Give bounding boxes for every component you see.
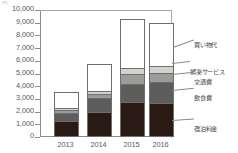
legend-item-買い物代: 買い物代	[194, 33, 217, 51]
stacked-bar-chart: (円) 10,0009,0008,0007,0006,0005,0004,000…	[0, 0, 238, 153]
bar-segment-娯楽サービス	[150, 67, 173, 74]
bar-segment-飲食費	[121, 85, 144, 103]
y-axis-tick-label: 3,000	[16, 94, 34, 102]
bars-group	[40, 10, 171, 137]
bar-2014	[87, 64, 112, 137]
y-axis-tick-label: 6,000	[16, 56, 34, 64]
bar-segment-宿泊料金	[150, 104, 173, 136]
legend-label: 買い物代	[194, 41, 217, 48]
bar-segment-飲食費	[88, 99, 111, 113]
y-axis-tick-label: 2,000	[16, 107, 34, 115]
bar-segment-買い物代	[150, 24, 173, 67]
x-axis-label-2016: 2016	[141, 140, 181, 149]
bar-segment-買い物代	[88, 65, 111, 92]
y-axis-tick-label: 5,000	[16, 69, 34, 77]
bar-2013	[54, 92, 79, 137]
bar-segment-宿泊料金	[121, 103, 144, 136]
legend-item-飲食費: 飲食費	[194, 86, 211, 104]
bar-segment-交通費	[121, 75, 144, 85]
bar-segment-宿泊料金	[88, 113, 111, 136]
bar-2015	[120, 19, 145, 137]
y-axis-tick-label: 9,000	[16, 18, 34, 26]
y-axis-tick-mark	[35, 137, 40, 138]
bar-segment-飲食費	[55, 114, 78, 122]
y-axis-tick-label: 4,000	[16, 82, 34, 90]
bar-segment-買い物代	[55, 93, 78, 110]
legend-item-宿泊料金: 宿泊料金	[194, 117, 217, 135]
y-axis-tick-label: 10,000	[12, 5, 34, 13]
legend-leader-line	[172, 118, 194, 121]
legend-leader-line	[172, 61, 190, 64]
legend-leader-line	[172, 88, 194, 91]
legend-label: 飲食費	[194, 94, 211, 101]
bar-segment-買い物代	[121, 20, 144, 69]
bar-segment-交通費	[150, 74, 173, 83]
legend-label: 交通費	[194, 78, 211, 85]
bar-segment-宿泊料金	[55, 122, 78, 136]
legend-label: 宿泊料金	[194, 125, 217, 132]
y-axis-tick-label: 7,000	[16, 44, 34, 52]
y-axis-tick-label: 8,000	[16, 31, 34, 39]
legend-leader-line	[173, 40, 194, 48]
bar-segment-飲食費	[150, 83, 173, 105]
y-axis-tick-label: 0	[30, 132, 34, 140]
y-axis-tick-label: 1,000	[16, 120, 34, 128]
bar-2016	[149, 23, 174, 137]
axis-unit-note: (円)	[2, 1, 8, 5]
